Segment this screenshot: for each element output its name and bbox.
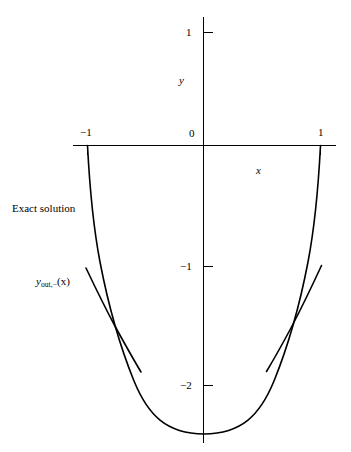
outer-solution-annotation: yout,−(x): [36, 276, 70, 288]
outer-solution-argument: (x): [57, 275, 70, 287]
origin-label: 0: [189, 128, 195, 139]
y-tick-label-minus-1: −1: [180, 261, 192, 272]
y-tick-label-1: 1: [186, 27, 192, 38]
exact-solution-annotation: Exact solution: [12, 203, 75, 214]
math-figure-plot: 1 −1 −2 0 −1 1 y x Exact solution yout,−…: [0, 0, 351, 452]
y-tick-label-minus-2: −2: [180, 380, 192, 391]
curve-outer-approx-right: [267, 266, 322, 372]
x-tick-label-minus-1: −1: [80, 127, 92, 138]
x-axis-label: x: [256, 165, 261, 176]
y-axis-label: y: [179, 75, 184, 86]
outer-solution-subscript: out,−: [41, 280, 57, 289]
x-tick-label-1: 1: [318, 127, 324, 138]
plot-canvas: [0, 0, 351, 452]
